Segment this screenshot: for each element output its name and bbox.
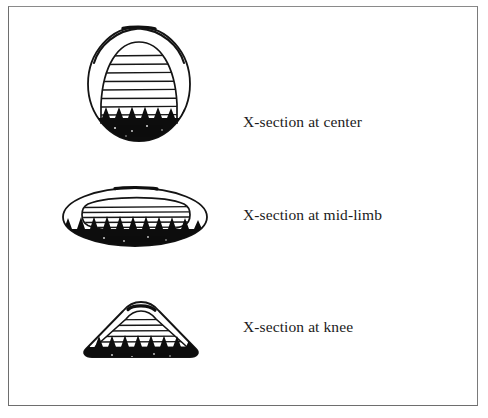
figure-page: X-section at center: [0, 0, 488, 418]
x-section-at-knee-label: X-section at knee: [243, 318, 353, 335]
cut-off-caption-sliver: . . . . . .. . .. ..: [60, 409, 230, 414]
x-section-at-knee-drawing: [70, 294, 212, 372]
x-section-at-mid-limb-drawing: [58, 178, 213, 260]
x-section-at-mid-limb-label: X-section at mid-limb: [243, 206, 382, 223]
x-section-at-center-drawing: [74, 18, 204, 148]
x-section-at-center-label: X-section at center: [243, 113, 362, 130]
